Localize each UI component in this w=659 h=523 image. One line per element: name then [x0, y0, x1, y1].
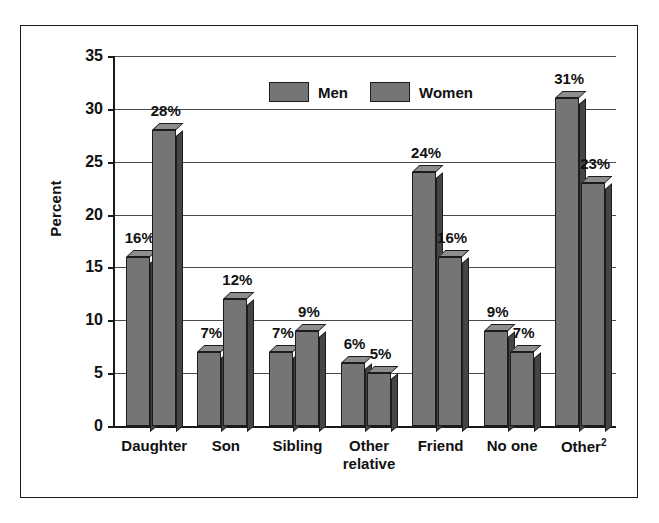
bar-men-3: [341, 363, 365, 426]
bar-women-1: [223, 299, 247, 426]
bar-front-face: [412, 172, 436, 426]
bar-side-face: [534, 352, 541, 432]
y-axis-tick: [108, 426, 115, 428]
bar-women-5: [510, 352, 534, 426]
y-axis-tick: [108, 162, 115, 164]
y-axis-title: Percent: [47, 139, 64, 279]
bar-top-face: [223, 292, 255, 299]
gridline: [115, 56, 616, 57]
bar-top-face: [367, 366, 399, 373]
bar-front-face: [555, 98, 579, 426]
bar-front-face: [438, 257, 462, 426]
gridline: [115, 162, 616, 163]
bar-top-face: [412, 165, 444, 172]
x-axis-category-label: Sibling: [272, 437, 322, 455]
bar-side-face: [247, 299, 254, 432]
bar-value-label: 24%: [401, 144, 451, 161]
bar-value-label: 7%: [499, 324, 549, 341]
x-axis-category-line: relative: [343, 455, 396, 473]
bar-front-face: [581, 183, 605, 426]
bar-front-face: [510, 352, 534, 426]
bar-front-face: [341, 363, 365, 426]
gridline: [115, 320, 616, 321]
bar-front-face: [269, 352, 293, 426]
x-axis-category-line: Sibling: [272, 437, 322, 455]
bar-men-1: [197, 352, 221, 426]
x-axis-category-label: Daughter: [121, 437, 187, 455]
bar-women-4: [438, 257, 462, 426]
bar-value-label: 9%: [284, 303, 334, 320]
bar-side-face: [319, 331, 326, 432]
bar-side-face: [391, 373, 398, 432]
y-axis-tick-label: 35: [85, 47, 103, 65]
x-axis-category-label: Son: [212, 437, 240, 455]
bar-men-6: [555, 98, 579, 426]
y-axis-tick-label: 0: [94, 417, 103, 435]
bar-front-face: [152, 130, 176, 426]
bar-front-face: [126, 257, 150, 426]
x-axis-category-line: Friend: [418, 437, 464, 455]
y-axis-tick: [108, 267, 115, 269]
bar-front-face: [197, 352, 221, 426]
y-axis-tick: [108, 373, 115, 375]
y-axis-tick: [108, 109, 115, 111]
bar-men-0: [126, 257, 150, 426]
bar-side-face: [462, 257, 469, 432]
bar-women-3: [367, 373, 391, 426]
bar-front-face: [484, 331, 508, 426]
bar-value-label: 23%: [570, 155, 620, 172]
bar-women-6: [581, 183, 605, 426]
plot-area: 05101520253035 16%28%7%12%7%9%6%5%24%16%…: [113, 56, 616, 428]
y-axis-tick-label: 20: [85, 206, 103, 224]
x-axis-category-label: Otherrelative: [343, 437, 396, 474]
bar-men-2: [269, 352, 293, 426]
bar-value-label: 12%: [212, 271, 262, 288]
bar-top-face: [555, 91, 587, 98]
y-axis-tick: [108, 320, 115, 322]
y-axis-tick: [108, 215, 115, 217]
bar-men-5: [484, 331, 508, 426]
x-axis-category-line: Other2: [561, 437, 607, 456]
x-axis-category-label: Friend: [418, 437, 464, 455]
bar-women-0: [152, 130, 176, 426]
gridline: [115, 267, 616, 268]
bar-value-label: 28%: [141, 102, 191, 119]
bar-value-label: 31%: [544, 70, 594, 87]
x-axis-category-line: Other: [343, 437, 396, 455]
bar-value-label: 16%: [427, 229, 477, 246]
bar-top-face: [510, 345, 542, 352]
x-axis-category-label: No one: [487, 437, 538, 455]
bar-value-label: 9%: [473, 303, 523, 320]
y-axis-tick-label: 5: [94, 364, 103, 382]
bar-front-face: [223, 299, 247, 426]
chart-figure-frame: Percent Men Women 05101520253035 16%28%7…: [20, 25, 638, 498]
gridline: [115, 215, 616, 216]
bar-top-face: [295, 324, 327, 331]
y-axis-tick: [108, 56, 115, 58]
y-axis-tick-label: 15: [85, 258, 103, 276]
bar-top-face: [581, 176, 613, 183]
x-axis-category-line: No one: [487, 437, 538, 455]
bar-women-2: [295, 331, 319, 426]
bar-front-face: [295, 331, 319, 426]
bar-top-face: [438, 250, 470, 257]
bar-front-face: [367, 373, 391, 426]
y-axis-tick-label: 25: [85, 153, 103, 171]
x-axis-category-line: Son: [212, 437, 240, 455]
y-axis-tick-label: 10: [85, 311, 103, 329]
bar-men-4: [412, 172, 436, 426]
x-axis-category-line: Daughter: [121, 437, 187, 455]
y-axis-tick-label: 30: [85, 100, 103, 118]
bar-value-label: 5%: [356, 345, 406, 362]
bar-side-face: [176, 130, 183, 432]
bar-side-face: [605, 183, 612, 432]
bar-top-face: [152, 123, 184, 130]
x-axis-category-label: Other2: [561, 437, 607, 456]
